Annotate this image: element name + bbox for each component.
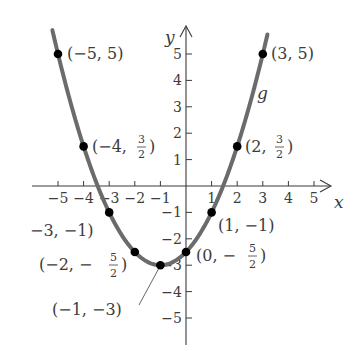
data-point bbox=[259, 50, 268, 59]
svg-text:2: 2 bbox=[249, 258, 256, 271]
svg-text:): ) bbox=[121, 255, 127, 274]
point-label-1-m1: (1, −1) bbox=[218, 216, 274, 235]
x-tick-label: −5 bbox=[48, 190, 69, 206]
svg-text:5: 5 bbox=[249, 242, 256, 255]
svg-text:(−4,: (−4, bbox=[92, 137, 127, 156]
data-point bbox=[79, 142, 88, 151]
data-point bbox=[131, 248, 140, 257]
x-tick-label: 3 bbox=[258, 190, 267, 206]
minimum-leader-line bbox=[139, 268, 159, 305]
x-tick-label: 2 bbox=[233, 190, 242, 206]
x-tick-label: −2 bbox=[124, 190, 145, 206]
y-tick-label: −2 bbox=[161, 231, 182, 247]
x-tick-label: −4 bbox=[73, 190, 94, 206]
point-label-2-3half: (2, 3 2 ) bbox=[245, 133, 293, 161]
svg-text:2: 2 bbox=[138, 148, 145, 161]
svg-text:): ) bbox=[260, 246, 266, 265]
point-label-m5-5: (−5, 5) bbox=[67, 44, 123, 63]
point-label-m4-3half: (−4, 3 2 ) bbox=[92, 133, 155, 161]
data-point bbox=[54, 50, 63, 59]
svg-text:(−2, −: (−2, − bbox=[39, 255, 92, 274]
svg-text:5: 5 bbox=[110, 251, 117, 264]
x-tick-label: 5 bbox=[310, 190, 319, 206]
x-tick-label: 4 bbox=[284, 190, 293, 206]
x-axis-label: x bbox=[334, 192, 344, 212]
y-tick-label: −1 bbox=[161, 204, 182, 220]
svg-text:(2,: (2, bbox=[245, 137, 267, 156]
svg-text:2: 2 bbox=[276, 148, 283, 161]
y-tick-label: −5 bbox=[161, 310, 182, 326]
point-label-m2-m5half: (−2, − 5 2 ) bbox=[39, 251, 127, 280]
y-tick-label: 3 bbox=[173, 99, 182, 115]
svg-text:): ) bbox=[149, 137, 155, 156]
curve-label-g: g bbox=[257, 83, 268, 103]
data-point bbox=[156, 261, 165, 270]
data-point bbox=[182, 248, 191, 257]
svg-text:): ) bbox=[287, 137, 293, 156]
y-tick-label: 1 bbox=[173, 152, 182, 168]
point-label-m3-m1: −3, −1) bbox=[30, 221, 94, 240]
x-ticks: −5−4−3−2−112345 bbox=[48, 181, 319, 206]
point-label-m1-m3-minimum: (−1, −3) bbox=[52, 300, 122, 319]
svg-text:2: 2 bbox=[110, 267, 117, 280]
point-label-3-5: (3, 5) bbox=[271, 44, 314, 63]
y-tick-label: 2 bbox=[173, 125, 182, 141]
point-label-0-m5half: (0, − 5 2 ) bbox=[196, 242, 266, 271]
function-graph: −5−4−3−2−112345 −5−4−3−2−112345 x y g (−… bbox=[0, 0, 363, 351]
svg-text:(0, −: (0, − bbox=[196, 246, 236, 265]
svg-text:3: 3 bbox=[276, 133, 283, 146]
data-point bbox=[233, 142, 242, 151]
svg-text:3: 3 bbox=[138, 133, 145, 146]
y-tick-label: −4 bbox=[161, 284, 182, 300]
y-axis-label: y bbox=[164, 27, 175, 47]
data-point bbox=[105, 208, 114, 217]
y-tick-label: 5 bbox=[173, 46, 182, 62]
y-tick-label: 4 bbox=[173, 72, 182, 88]
data-point bbox=[207, 208, 216, 217]
